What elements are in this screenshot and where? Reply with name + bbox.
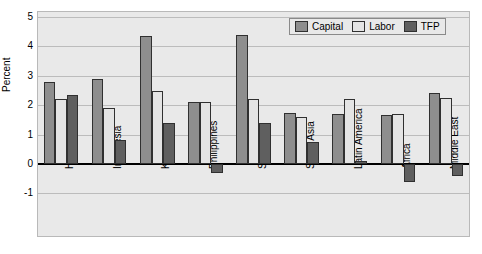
y-tick-label: 4: [27, 41, 33, 51]
bar-tfp[interactable]: [211, 164, 223, 173]
y-tick-label: -1: [24, 188, 33, 198]
bar-capital[interactable]: [92, 79, 104, 164]
y-tick-label: 0: [27, 159, 33, 169]
bar-capital[interactable]: [381, 115, 393, 164]
bar-capital[interactable]: [332, 114, 344, 164]
bar-capital[interactable]: [236, 35, 248, 164]
legend-swatch-labor: [352, 21, 365, 32]
bar-tfp[interactable]: [67, 95, 79, 164]
y-axis-title: Percent: [2, 58, 12, 92]
bar-labor[interactable]: [440, 98, 452, 164]
legend-label: Labor: [369, 22, 395, 32]
bar-tfp[interactable]: [259, 123, 271, 164]
bar-tfp[interactable]: [452, 164, 464, 176]
bar-labor[interactable]: [344, 99, 356, 164]
bar-capital[interactable]: [44, 82, 56, 164]
bar-tfp[interactable]: [163, 123, 175, 164]
legend-label: Capital: [312, 22, 343, 32]
bar-capital[interactable]: [140, 36, 152, 164]
bar-tfp[interactable]: [404, 164, 416, 182]
legend-item[interactable]: Labor: [352, 21, 395, 32]
bar-capital[interactable]: [188, 102, 200, 164]
legend-swatch-tfp: [404, 21, 417, 32]
bar-labor[interactable]: [248, 99, 260, 164]
y-tick-label: 3: [27, 71, 33, 81]
bar-capital[interactable]: [429, 93, 441, 164]
legend-label: TFP: [421, 22, 440, 32]
legend-item[interactable]: TFP: [404, 21, 440, 32]
bar-tfp[interactable]: [307, 142, 319, 164]
bar-tfp[interactable]: [355, 161, 367, 164]
bar-labor[interactable]: [55, 99, 67, 164]
chart-legend: CapitalLaborTFP: [289, 18, 446, 35]
bar-labor[interactable]: [200, 102, 212, 164]
legend-swatch-capital: [295, 21, 308, 32]
bar-tfp[interactable]: [115, 140, 127, 164]
y-tick-label: 1: [27, 130, 33, 140]
y-tick-label: 2: [27, 100, 33, 110]
y-tick-label: 5: [27, 12, 33, 22]
bar-labor[interactable]: [152, 91, 164, 165]
bar-labor[interactable]: [296, 117, 308, 164]
y-axis-ticks: 543210-1: [0, 0, 37, 254]
bar-labor[interactable]: [103, 108, 115, 164]
bar-chart: 543210-1 Percent Hong KongIndonesiaKorea…: [0, 0, 482, 254]
bar-capital[interactable]: [284, 113, 296, 164]
bar-labor[interactable]: [392, 114, 404, 164]
legend-item[interactable]: Capital: [295, 21, 343, 32]
